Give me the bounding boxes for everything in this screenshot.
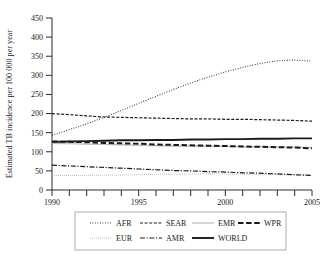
y-tick-label: 350 (31, 52, 43, 61)
data-series-group (52, 60, 312, 175)
y-axis-ticks-group: 050100150200250300350400450 (31, 14, 52, 195)
y-axis-title-group: Estimated TB incidence per 100 000 per y… (5, 30, 14, 179)
legend-label-sear: SEAR (166, 219, 187, 228)
y-tick-label: 50 (35, 167, 43, 176)
series-line-world (52, 138, 312, 141)
x-tick-label: 1995 (131, 198, 147, 207)
legend-label-amr: AMR (166, 234, 185, 243)
legend-label-wpr: WPR (264, 219, 282, 228)
series-line-wpr (52, 141, 312, 148)
y-tick-label: 0 (39, 186, 43, 195)
x-axis-ticks-group: 1990199520002005 (44, 190, 320, 207)
y-tick-label: 150 (31, 129, 43, 138)
x-tick-label: 2005 (304, 198, 320, 207)
series-line-sear (52, 114, 312, 122)
legend-label-world: WORLD (218, 234, 248, 243)
x-tick-label: 2000 (217, 198, 233, 207)
y-tick-label: 200 (31, 109, 43, 118)
legend-label-emr: EMR (218, 219, 236, 228)
y-axis-title: Estimated TB incidence per 100 000 per y… (5, 30, 14, 179)
y-tick-label: 450 (31, 14, 43, 23)
y-tick-label: 100 (31, 148, 43, 157)
legend-label-eur: EUR (116, 234, 133, 243)
y-tick-label: 400 (31, 33, 43, 42)
legend-box (75, 212, 286, 250)
legend-label-afr: AFR (116, 219, 132, 228)
y-tick-label: 250 (31, 90, 43, 99)
legend: AFRSEAREMRWPREURAMRWORLD (75, 212, 286, 250)
y-tick-label: 300 (31, 71, 43, 80)
series-line-afr (52, 60, 312, 135)
tb-incidence-line-chart: Estimated TB incidence per 100 000 per y… (0, 0, 327, 262)
x-tick-label: 1990 (44, 198, 60, 207)
tb-incidence-chart-figure: Estimated TB incidence per 100 000 per y… (0, 0, 327, 262)
